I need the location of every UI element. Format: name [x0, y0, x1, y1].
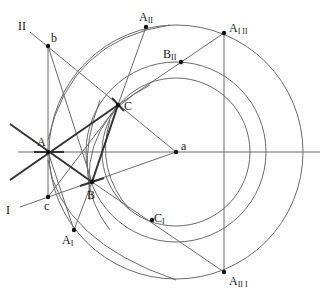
label-trace-II: II: [18, 19, 26, 33]
label-A-II: AII: [139, 10, 153, 25]
point-b: [46, 44, 50, 48]
point-A: [46, 150, 50, 154]
points: [46, 25, 226, 274]
point-B-II: [179, 60, 183, 64]
point-C: [116, 103, 120, 107]
point-B: [90, 180, 94, 184]
edge-A-C: [10, 105, 118, 180]
label-b: b: [51, 31, 57, 45]
label-A-II-I: AII I: [229, 274, 248, 289]
point-A-II-I: [222, 270, 226, 274]
line-B-AIII: [92, 182, 224, 272]
geometric-construction-diagram: a A B C b c AII AI II BII AI CI AII I II…: [0, 0, 330, 292]
label-C: C: [124, 99, 132, 113]
point-A-I: [72, 228, 76, 232]
point-A-II: [144, 25, 148, 29]
label-C-I: CI: [154, 211, 165, 226]
label-A-I-II: AI II: [229, 21, 248, 36]
label-A: A: [37, 135, 46, 149]
point-a: [174, 150, 178, 154]
line-A-AI: [48, 152, 74, 230]
label-a: a: [181, 139, 187, 153]
label-trace-I: I: [6, 203, 10, 217]
label-c: c: [44, 199, 49, 213]
edge-B-C: [92, 105, 118, 182]
labels: a A B C b c AII AI II BII AI CI AII I II…: [6, 10, 248, 289]
label-B: B: [87, 188, 95, 202]
label-B-II: BII: [163, 47, 177, 62]
point-A-I-II: [222, 31, 226, 35]
label-A-I: AI: [62, 233, 74, 248]
